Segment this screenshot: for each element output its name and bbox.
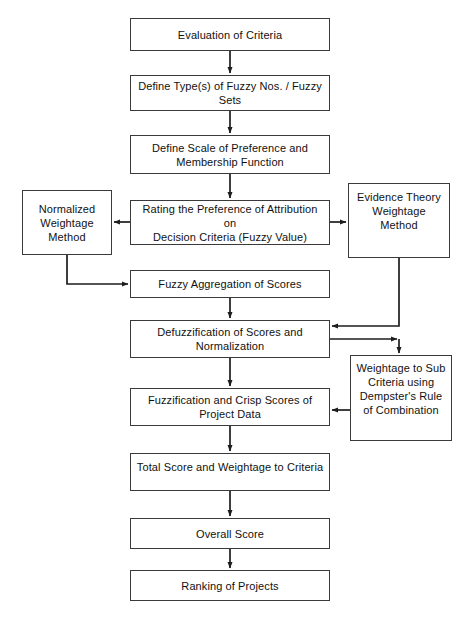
node-overall-score[interactable]: Overall Score [130, 518, 330, 549]
node-label: Weightage to Sub Criteria using Dempster… [357, 361, 446, 417]
node-label: Define Type(s) of Fuzzy Nos. / Fuzzy Set… [138, 79, 322, 107]
node-fuzzification-and-crisp-scores[interactable]: Fuzzification and Crisp Scores of Projec… [130, 388, 330, 426]
node-defuzzification-of-scores[interactable]: Defuzzification of Scores and Normalizat… [130, 320, 330, 358]
node-define-scale-of-preference[interactable]: Define Scale of Preference and Membershi… [130, 135, 330, 174]
node-label: Ranking of Projects [181, 579, 278, 593]
node-evidence-theory-weightage-method[interactable]: Evidence Theory Weightage Method [348, 183, 450, 258]
node-rating-the-preference[interactable]: Rating the Preference of Attribution on … [130, 200, 330, 245]
node-label: Fuzzy Aggregation of Scores [158, 277, 301, 291]
node-ranking-of-projects[interactable]: Ranking of Projects [130, 570, 330, 601]
node-label: Define Scale of Preference and Membershi… [152, 141, 308, 169]
node-label: Evaluation of Criteria [178, 28, 282, 42]
node-label: Defuzzification of Scores and Normalizat… [157, 325, 302, 353]
node-define-fuzzy-types[interactable]: Define Type(s) of Fuzzy Nos. / Fuzzy Set… [130, 75, 330, 111]
connector-evidence-theory-to-defuzzification [332, 258, 399, 326]
node-total-score-and-weightage[interactable]: Total Score and Weightage to Criteria [130, 453, 330, 491]
figure-caption [8, 612, 460, 622]
node-label: Overall Score [196, 527, 264, 541]
node-normalized-weightage-method[interactable]: Normalized Weightage Method [22, 190, 112, 255]
node-evaluation-of-criteria[interactable]: Evaluation of Criteria [130, 18, 330, 51]
node-label: Normalized Weightage Method [39, 202, 96, 244]
node-fuzzy-aggregation-of-scores[interactable]: Fuzzy Aggregation of Scores [130, 270, 330, 298]
node-label: Total Score and Weightage to Criteria [137, 460, 323, 474]
node-label: Evidence Theory Weightage Method [357, 190, 441, 232]
node-weightage-to-sub-criteria[interactable]: Weightage to Sub Criteria using Dempster… [350, 355, 452, 441]
node-label: Rating the Preference of Attribution on … [135, 202, 325, 244]
node-label: Fuzzification and Crisp Scores of Projec… [148, 393, 312, 421]
connector-normalized-to-fuzzy-aggregation [67, 255, 128, 284]
